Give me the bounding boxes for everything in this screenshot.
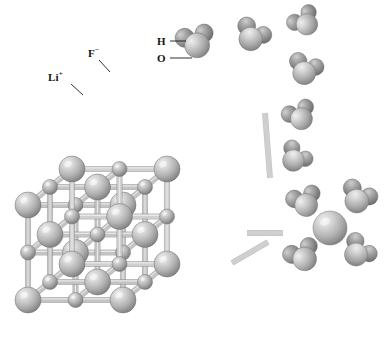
fluoride-ion-sphere [132, 222, 158, 248]
fluoride-ion-sphere [154, 156, 180, 182]
fluoride-ion-sphere [59, 251, 85, 277]
fluoride-ion-sphere [110, 287, 136, 313]
oxygen-atom-label: O [157, 53, 166, 64]
fluoride-ion-label-charge: − [95, 46, 99, 54]
fluoride-ion-sphere [85, 174, 111, 200]
lithium-ion-label-charge: + [59, 70, 63, 78]
solvated-ion-sphere [313, 211, 347, 245]
lithium-ion-sphere [21, 245, 36, 260]
molecular-scene [0, 0, 392, 340]
fluoride-ion-sphere [107, 204, 133, 230]
fluoride-ion-label: F− [88, 48, 99, 59]
lithium-ion-sphere [138, 275, 153, 290]
lithium-ion-sphere [68, 293, 83, 308]
lithium-ion-sphere [43, 180, 58, 195]
lithium-ion-sphere [112, 257, 127, 272]
lithium-ion-sphere [138, 180, 153, 195]
fluoride-ion-sphere [59, 156, 85, 182]
lithium-ion-sphere [160, 209, 175, 224]
hydrogen-atom-label: H [157, 36, 166, 47]
fluoride-ion-sphere [85, 269, 111, 295]
fluoride-ion-sphere [37, 222, 63, 248]
fluoride-ion-sphere [154, 251, 180, 277]
lithium-ion-sphere [43, 275, 58, 290]
figure-canvas: Li+F−HO [0, 0, 392, 340]
lithium-ion-label: Li+ [48, 72, 63, 83]
fluoride-ion-sphere [15, 287, 41, 313]
lithium-ion-sphere [90, 227, 105, 242]
fluoride-ion-sphere [15, 192, 41, 218]
lithium-ion-sphere [65, 209, 80, 224]
lithium-ion-sphere [112, 162, 127, 177]
